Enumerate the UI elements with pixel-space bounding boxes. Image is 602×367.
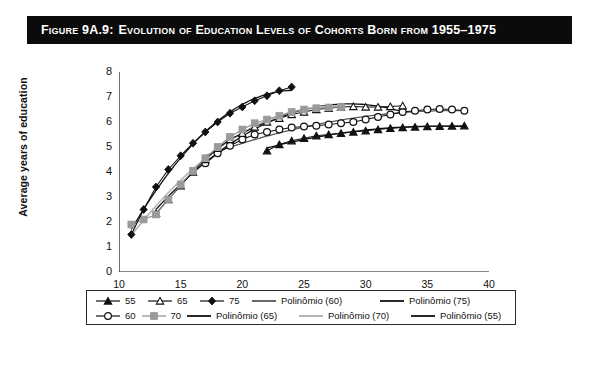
legend-item-label: Polinômio (70) [328,310,389,322]
y-tick-label: 8 [92,65,112,77]
figure-root: Figure 9A.9:Evolution of Education Level… [0,0,602,367]
legend-line-icon [298,310,324,322]
x-tick-label: 10 [106,278,132,290]
legend-item-label: Polinômio (75) [409,295,470,307]
y-tick-label: 4 [92,165,112,177]
legend-item-label: 75 [229,295,240,307]
plot-area [119,72,489,272]
chart-svg [119,72,489,272]
y-tick-label: 2 [92,215,112,227]
figure-caption-text: Evolution of Education Levels of Cohorts… [119,23,497,37]
legend-item[interactable]: 75 [199,293,251,309]
legend-item-label: 65 [177,295,188,307]
y-tick-label: 7 [92,90,112,102]
y-tick-label: 5 [92,140,112,152]
legend-row: 6070Polinômio (65)Polinômio (70)Polinômi… [87,308,515,324]
x-tick-label: 30 [353,278,379,290]
figure-title-bar: Figure 9A.9:Evolution of Education Level… [27,16,572,44]
legend-filled-diamond-icon [199,295,225,307]
legend-filled-triangle-icon [95,295,121,307]
y-tick-label: 6 [92,115,112,127]
x-tick-label: 40 [476,278,502,290]
legend-item[interactable]: Polinômio (65) [186,308,298,324]
legend-item-label: 55 [125,295,136,307]
series-70 [128,104,344,228]
legend-item[interactable]: Polinômio (55) [410,308,515,324]
legend-line-icon [186,310,212,322]
chart-panel: Average years of education 0123456781015… [27,44,572,345]
x-tick-label: 20 [229,278,255,290]
legend-item-label: Polinômio (60) [281,295,342,307]
legend-item-label: Polinômio (65) [216,310,277,322]
legend-item[interactable]: Polinômio (70) [298,308,410,324]
legend-item[interactable]: Polinômio (75) [379,293,499,309]
legend-item-label: 70 [171,310,182,322]
x-tick-label: 35 [414,278,440,290]
legend-row: 556575Polinômio (60)Polinômio (75) [87,293,515,309]
figure-number-label: Figure 9A.9: [41,23,114,37]
y-tick-label: 0 [92,265,112,277]
legend-line-icon [379,295,405,307]
y-axis-title: Average years of education [17,0,29,62]
chart-legend: 556575Polinômio (60)Polinômio (75) 6070P… [86,290,516,325]
legend-line-icon [410,310,436,322]
y-axis-title-text: Average years of education [17,62,29,232]
y-tick-label: 1 [92,240,112,252]
legend-line-icon [251,295,277,307]
legend-open-triangle-icon [147,295,173,307]
legend-filled-square-icon [141,310,167,322]
legend-item[interactable]: 70 [141,308,187,324]
legend-open-circle-icon [95,310,121,322]
legend-item[interactable]: 60 [95,308,141,324]
legend-item-label: 60 [125,310,136,322]
page-title: Figure 9A.9:Evolution of Education Level… [27,23,496,37]
x-tick-label: 25 [291,278,317,290]
legend-item[interactable]: 65 [147,293,199,309]
legend-item-label: Polinômio (55) [440,310,501,322]
legend-item[interactable]: 55 [95,293,147,309]
y-tick-label: 3 [92,190,112,202]
legend-item[interactable]: Polinômio (60) [251,293,379,309]
x-tick-label: 15 [168,278,194,290]
